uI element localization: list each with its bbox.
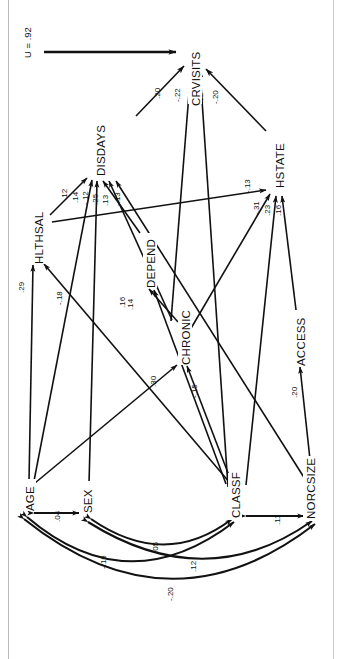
coef-access-hstate: .16 xyxy=(274,204,283,216)
coef-age-chronic: .30 xyxy=(149,375,158,387)
node-crvisits: CRVISITS xyxy=(188,44,202,106)
coef-sex-norcsize: .12 xyxy=(189,560,198,572)
node-chronic: CHRONIC xyxy=(178,308,192,365)
coef-age-disdays: .14 xyxy=(71,191,80,203)
coef-classf-hstate: .23 xyxy=(263,204,272,216)
edge-hstate-crvisits: -.20 xyxy=(206,69,266,131)
node-norcsize: NORCSIZE xyxy=(303,456,317,521)
edge-access-hstate: .16 xyxy=(274,196,297,318)
coef-classf-chronic: -.15 xyxy=(190,384,199,398)
corr-classf-norcsize: .11 xyxy=(246,514,304,525)
node-sex: SEX xyxy=(80,481,94,513)
edge-classf-hlthsal: -.18 xyxy=(44,264,230,483)
node-label-access: ACCESS xyxy=(295,317,307,366)
node-age: AGE xyxy=(22,479,36,511)
edge-chronic-disdays: .13 xyxy=(101,181,172,320)
edge-age-chronic: .30 xyxy=(35,365,177,483)
node-depend: DEPEND xyxy=(143,233,157,288)
node-label-age: AGE xyxy=(24,486,36,511)
node-label-hstate: HSTATE xyxy=(274,143,286,188)
coef-chronic-hstate: -.31 xyxy=(252,201,261,215)
node-label-crvisits: CRVISITS xyxy=(190,51,202,106)
corr-age-norcsize: -.20 xyxy=(24,519,315,601)
coef-hlthsal-disdays: .12 xyxy=(60,188,69,200)
node-label-sex: SEX xyxy=(82,489,94,513)
coef-sex-disdays: -.12 xyxy=(81,191,90,205)
coef-age-norcsize: -.20 xyxy=(166,587,175,601)
coef-age-hlthsal: .29 xyxy=(17,281,26,293)
disturbance-u: U = .92 xyxy=(22,27,176,58)
u-label: U = .92 xyxy=(22,27,33,58)
node-label-classf: CLASSF xyxy=(230,472,242,518)
corr-sex-norcsize: .12 xyxy=(88,521,312,572)
coef-hstate-crvisits: -.20 xyxy=(211,90,220,104)
edge-classf-chronic: -.15 xyxy=(187,366,233,486)
coef-classf-norcsize: .11 xyxy=(273,514,282,525)
edge-norcsize-disdays: -.13 xyxy=(113,181,305,479)
node-classf: CLASSF xyxy=(228,472,242,520)
corr-age-sex: .04 xyxy=(34,510,79,522)
coef-classf-hlthsal: -.18 xyxy=(55,291,64,305)
node-access: ACCESS xyxy=(293,310,307,366)
coef-classf-depend: .14 xyxy=(126,298,135,310)
coef-chronic-disdays: .13 xyxy=(101,194,110,206)
coef-disdays-crvisits: .20 xyxy=(153,87,162,99)
coef-norcsize-disdays: -.13 xyxy=(113,192,122,206)
figure-page: U = .92 .20 -.22 .12 -.20 .12 .14 xyxy=(0,0,339,659)
edge-classf-crvisits: .12 xyxy=(196,70,228,487)
node-label-hlthsal: HLTHSAL xyxy=(33,211,45,264)
node-hlthsal: HLTHSAL xyxy=(31,208,45,264)
coef-age-sex: .04 xyxy=(53,510,62,522)
node-label-chronic: CHRONIC xyxy=(180,310,192,365)
node-hstate: HSTATE xyxy=(272,136,286,188)
coef-hlthsal-hstate: -.13 xyxy=(243,179,252,193)
coef-depend-disdays: .25 xyxy=(91,193,100,205)
edge-chronic-hstate: -.31 xyxy=(190,194,270,330)
node-label-depend: DEPEND xyxy=(145,239,157,288)
edge-classf-hstate: .23 xyxy=(246,196,276,485)
node-label-norcsize: NORCSIZE xyxy=(305,458,317,519)
path-diagram: U = .92 .20 -.22 .12 -.20 .12 .14 xyxy=(0,0,339,659)
edge-age-hlthsal: .29 xyxy=(17,265,33,481)
coef-chronic-crvisits: -.22 xyxy=(173,88,182,102)
node-label-disdays: DISDAYS xyxy=(95,125,107,176)
coef-norcsize-access: .20 xyxy=(290,386,299,398)
node-disdays: DISDAYS xyxy=(93,118,107,176)
